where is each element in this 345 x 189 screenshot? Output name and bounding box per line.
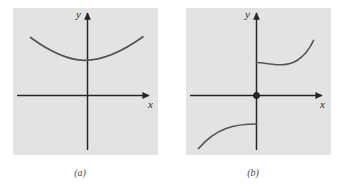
- panel-caption-b: (b): [228, 168, 278, 178]
- figure-container: y x y x (a) (b): [0, 0, 345, 189]
- plot-graphics-layer: [0, 0, 345, 189]
- x-axis-label-a: x: [148, 99, 153, 110]
- curve-upper-branch-first-quadrant: [257, 41, 314, 65]
- y-axis-label-a: y: [76, 9, 81, 20]
- origin-filled-point-b: [253, 92, 259, 98]
- panel-caption-a: (a): [55, 168, 105, 178]
- y-axis-label-b: y: [245, 9, 250, 20]
- x-axis-label-b: x: [320, 99, 325, 110]
- axes-panel-b: [190, 13, 322, 150]
- curve-lower-branch-third-quadrant: [199, 124, 257, 149]
- axes-panel-a: [17, 13, 149, 150]
